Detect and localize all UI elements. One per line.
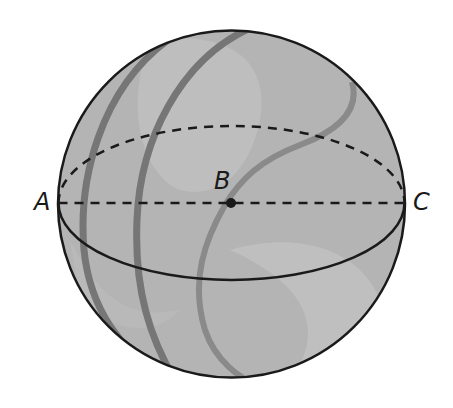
center-point-b bbox=[226, 198, 236, 208]
sphere-svg bbox=[0, 0, 453, 408]
point-label-c: C bbox=[413, 190, 430, 214]
point-label-a: A bbox=[34, 190, 50, 214]
sphere-diagram: A B C bbox=[0, 0, 453, 408]
point-label-b: B bbox=[214, 169, 230, 193]
